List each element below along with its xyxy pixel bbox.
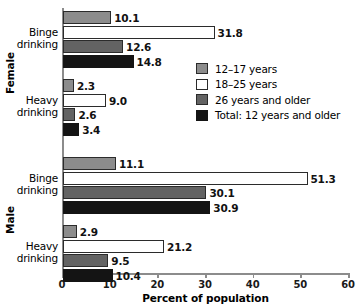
bar-value-label: 30.1: [209, 187, 234, 199]
category-label-line2: drinking: [0, 253, 58, 265]
legend-item: 12–17 years: [196, 61, 340, 77]
x-axis-tick-label: 40: [246, 279, 260, 290]
x-axis-tick: [253, 273, 255, 278]
category-label: Heavydrinking: [0, 241, 58, 264]
bar-value-label: 2.6: [78, 109, 96, 121]
bar: [63, 11, 111, 24]
bar: [63, 269, 113, 282]
bar: [63, 201, 210, 214]
legend-item: 26 years and older: [196, 92, 340, 108]
x-axis-tick-label: 60: [341, 279, 355, 290]
x-axis-tick: [157, 273, 159, 278]
legend-swatch: [196, 94, 208, 105]
x-axis-tick: [348, 273, 350, 278]
bar: [63, 94, 106, 107]
bar: [63, 186, 206, 199]
bar: [63, 172, 308, 185]
x-axis-tick: [300, 273, 302, 278]
bar-value-label: 30.9: [213, 202, 238, 214]
category-label-line2: drinking: [0, 185, 58, 197]
bar: [63, 108, 75, 121]
bar-value-label: 11.1: [119, 158, 144, 170]
legend-swatch: [196, 110, 208, 121]
bar-chart: 0102030405060 Percent of population 10.1…: [0, 0, 359, 308]
group-label-male: Male: [4, 200, 16, 240]
bar: [63, 225, 77, 238]
legend-item: 18–25 years: [196, 77, 340, 93]
legend: 12–17 years18–25 years26 years and older…: [196, 61, 340, 123]
legend-label: 26 years and older: [215, 94, 310, 106]
bar-value-label: 12.6: [126, 41, 151, 53]
bar-value-label: 2.3: [77, 80, 95, 92]
bar: [63, 240, 164, 253]
bar: [63, 123, 79, 136]
bar-value-label: 51.3: [311, 173, 336, 185]
category-label-line2: drinking: [0, 39, 58, 51]
bar-value-label: 31.8: [218, 27, 243, 39]
x-axis-tick-label: 30: [198, 279, 212, 290]
bar: [63, 254, 108, 267]
bar-value-label: 10.1: [114, 12, 139, 24]
bar: [63, 79, 74, 92]
bar-value-label: 21.2: [167, 241, 192, 253]
x-axis-tick: [205, 273, 207, 278]
category-label: Bingedrinking: [0, 27, 58, 50]
category-label: Bingedrinking: [0, 173, 58, 196]
bar: [63, 26, 215, 39]
bar: [63, 157, 116, 170]
group-label-female: Female: [4, 54, 16, 94]
legend-label: 12–17 years: [215, 63, 277, 75]
bar-value-label: 9.5: [111, 255, 129, 267]
legend-swatch: [196, 79, 208, 90]
bar: [63, 55, 134, 68]
bar-value-label: 14.8: [137, 56, 162, 68]
bar: [63, 40, 123, 53]
legend-swatch: [196, 63, 208, 74]
legend-item: Total: 12 years and older: [196, 108, 340, 124]
legend-label: 18–25 years: [215, 78, 277, 90]
x-axis-tick-label: 20: [150, 279, 164, 290]
x-axis-label: Percent of population: [62, 292, 349, 304]
bar-value-label: 3.4: [82, 124, 100, 136]
bar-value-label: 10.4: [116, 270, 141, 282]
bar-value-label: 2.9: [80, 226, 98, 238]
category-label: Heavydrinking: [0, 95, 58, 118]
legend-label: Total: 12 years and older: [215, 109, 340, 121]
category-label-line2: drinking: [0, 107, 58, 119]
x-axis-tick-label: 50: [293, 279, 307, 290]
bar-value-label: 9.0: [109, 95, 127, 107]
